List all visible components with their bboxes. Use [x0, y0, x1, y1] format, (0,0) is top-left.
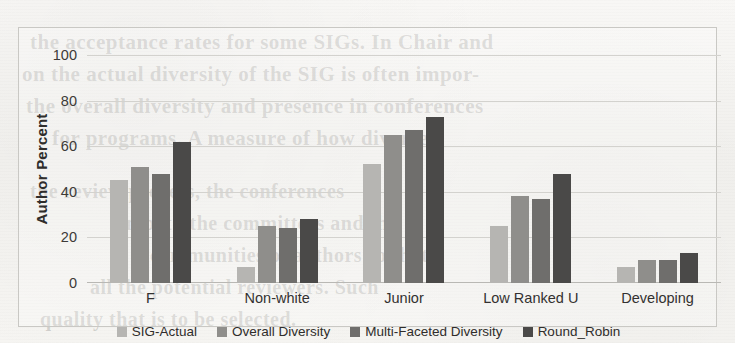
- chart-legend: SIG-ActualOverall DiversityMulti-Faceted…: [19, 324, 718, 339]
- bar: [553, 174, 571, 283]
- y-axis-tick-label: 80: [61, 93, 77, 109]
- bar-group: [87, 55, 214, 283]
- legend-item[interactable]: Overall Diversity: [217, 324, 330, 339]
- y-axis-tick-label: 100: [53, 47, 77, 63]
- bar: [300, 219, 318, 283]
- legend-label: Overall Diversity: [232, 324, 330, 339]
- x-axis-tick-label: Junior: [384, 290, 424, 306]
- bar: [237, 267, 255, 283]
- bar: [490, 226, 508, 283]
- bar: [258, 226, 276, 283]
- bar-group: [467, 55, 594, 283]
- y-axis-tick-label: 0: [69, 275, 77, 291]
- bar: [680, 253, 698, 283]
- legend-swatch-icon: [117, 327, 127, 337]
- bar-chart: Author Percent 020406080100 FNon-whiteJu…: [18, 27, 717, 327]
- scanned-page: the acceptance rates for some SIGs. In C…: [0, 0, 735, 343]
- bar: [131, 167, 149, 283]
- legend-swatch-icon: [217, 327, 227, 337]
- y-axis-tick-label: 60: [61, 138, 77, 154]
- bar: [426, 117, 444, 283]
- legend-item[interactable]: Round_Robin: [523, 324, 621, 339]
- y-axis-tick-label: 20: [61, 229, 77, 245]
- legend-label: SIG-Actual: [132, 324, 197, 339]
- legend-swatch-icon: [350, 327, 360, 337]
- x-axis-tick-label: F: [146, 290, 155, 306]
- legend-swatch-icon: [523, 327, 533, 337]
- bar-group: [341, 55, 468, 283]
- bar-group: [594, 55, 721, 283]
- bar: [363, 164, 381, 283]
- x-axis-tick-label: Non-white: [245, 290, 310, 306]
- bar-group: [214, 55, 341, 283]
- plot-area: [87, 55, 721, 283]
- bar: [532, 199, 550, 283]
- y-axis-title: Author Percent: [33, 113, 50, 224]
- legend-label: Multi-Faceted Diversity: [365, 324, 502, 339]
- bar: [511, 196, 529, 283]
- legend-item[interactable]: SIG-Actual: [117, 324, 197, 339]
- legend-label: Round_Robin: [538, 324, 621, 339]
- y-axis-tick-label: 40: [61, 184, 77, 200]
- bar: [617, 267, 635, 283]
- bar: [173, 142, 191, 283]
- x-axis-tick-label: Developing: [621, 290, 694, 306]
- legend-item[interactable]: Multi-Faceted Diversity: [350, 324, 502, 339]
- x-axis-tick-label: Low Ranked U: [483, 290, 578, 306]
- bar: [659, 260, 677, 283]
- bar: [405, 130, 423, 283]
- bar: [110, 180, 128, 283]
- bar: [152, 174, 170, 283]
- bar: [638, 260, 656, 283]
- bar: [279, 228, 297, 283]
- bar: [384, 135, 402, 283]
